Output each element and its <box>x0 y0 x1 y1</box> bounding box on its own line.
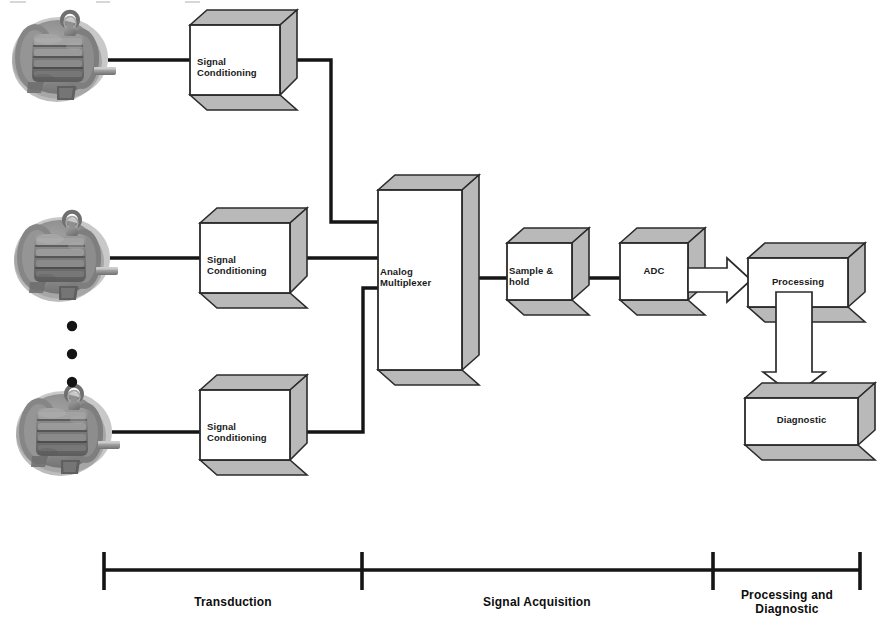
signal-conditioning-bottom-block <box>200 375 307 475</box>
sample-and-hold-block <box>507 228 589 315</box>
vertical-ellipsis <box>67 321 77 387</box>
link-sc3-to-mux <box>307 288 378 432</box>
analog-multiplexer-block <box>378 175 479 385</box>
signal-conditioning-top-block <box>190 10 297 110</box>
electric-motor-middle <box>14 212 118 302</box>
link-sc1-to-mux <box>297 60 378 222</box>
diagram-canvas: Signal Conditioning Signal Conditioning … <box>0 0 890 632</box>
signal-conditioning-middle-block <box>200 208 307 308</box>
electric-motor-bottom <box>16 386 120 476</box>
diagnostic-block <box>745 383 875 460</box>
stage-ruler <box>104 552 860 590</box>
electric-motor-top <box>12 12 116 102</box>
block-diagram-svg <box>0 0 890 632</box>
